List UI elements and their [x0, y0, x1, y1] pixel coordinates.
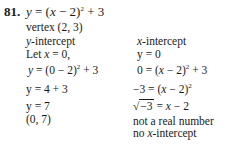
set-y-zero: y = 0 [137, 49, 161, 61]
problem-equation: y = (x − 2)2 + 3 [26, 5, 104, 18]
square-root-icon: √−3 [133, 101, 154, 113]
no-x-intercept-note: no x-intercept [133, 128, 197, 140]
y-intercept-heading: y-intercept [26, 36, 75, 48]
right-step-3: √−3 = x − 2 [133, 101, 189, 113]
right-step-1: 0 = (x − 2)2 + 3 [137, 65, 207, 77]
let-statement: Let x = 0, [26, 49, 70, 61]
y-intercept-result: (0, 7) [26, 114, 51, 126]
x-intercept-heading: x-intercept [137, 36, 186, 48]
problem-number: 81. [4, 5, 20, 18]
vertex-text: vertex (2, 3) [26, 22, 83, 34]
left-step-2: y = 4 + 3 [26, 84, 68, 96]
left-step-1: y = (0 − 2)2 + 3 [28, 65, 98, 77]
left-step-3: y = 7 [26, 101, 50, 113]
right-step-2: −3 = (x − 2)2 [133, 84, 192, 96]
not-real-note: not a real number [133, 116, 214, 128]
